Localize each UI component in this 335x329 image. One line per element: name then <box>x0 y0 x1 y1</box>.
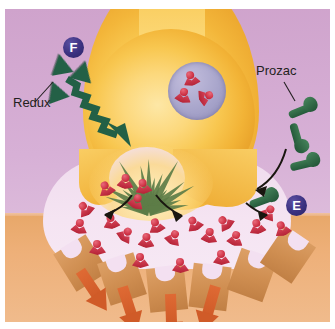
serotonin-molecule-bound <box>132 253 149 269</box>
redux-label: Redux <box>13 95 51 110</box>
serotonin-head <box>185 70 194 79</box>
illustration-figure: Redux Prozac FE <box>0 0 335 329</box>
release-starburst <box>83 127 215 219</box>
serotonin-head <box>252 219 261 228</box>
serotonin-head <box>217 250 225 258</box>
badge-e-marker: E <box>286 195 307 216</box>
prozac-label: Prozac <box>256 63 296 78</box>
serotonin-molecule-cleft <box>137 232 156 250</box>
serotonin-molecule-cleft <box>70 217 90 236</box>
synapse-illustration-plate: Redux Prozac FE <box>5 9 330 322</box>
serotonin-molecule-cleft <box>116 173 135 191</box>
badge-f-marker: F <box>63 37 84 58</box>
serotonin-head <box>93 240 101 248</box>
serotonin-head <box>176 258 184 266</box>
serotonin-head <box>136 253 144 261</box>
serotonin-molecule-bound <box>213 250 230 266</box>
signal-arrow-shaft <box>165 294 177 322</box>
serotonin-molecule-bound <box>89 240 106 256</box>
serotonin-molecule-bound <box>172 258 189 274</box>
serotonin-molecule-cleft <box>200 227 220 246</box>
